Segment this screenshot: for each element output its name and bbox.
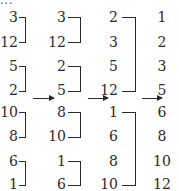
value-c1-r4: 2 [0, 83, 18, 97]
value-c4-r6: 8 [151, 129, 173, 143]
value-c2-r2: 12 [42, 35, 66, 49]
value-c2-r8: 6 [42, 177, 66, 191]
value-c1-r6: 8 [0, 129, 18, 143]
arrow-right-icon [88, 98, 108, 99]
value-c3-r8: 10 [94, 177, 118, 191]
value-c4-r3: 3 [151, 59, 173, 73]
value-c2-r6: 10 [42, 129, 66, 143]
value-c3-r7: 8 [94, 154, 118, 168]
value-c2-r3: 2 [42, 59, 66, 73]
pair-bracket [68, 17, 81, 43]
value-c4-r1: 1 [151, 10, 173, 24]
merge-bracket [122, 17, 136, 92]
value-c3-r5: 1 [94, 105, 118, 119]
pair-bracket [68, 161, 81, 186]
value-c1-r5: 10 [0, 105, 18, 119]
pair-bracket [19, 66, 26, 92]
arrow-right-icon [142, 98, 162, 99]
value-c2-r5: 8 [42, 105, 66, 119]
value-c3-r6: 6 [94, 129, 118, 143]
value-c4-r7: 10 [151, 154, 173, 168]
value-c3-r1: 2 [94, 10, 118, 24]
value-c1-r7: 6 [0, 154, 18, 168]
value-c1-r8: 1 [0, 177, 18, 191]
value-c4-r2: 2 [151, 35, 173, 49]
merge-bracket [122, 112, 136, 186]
pair-bracket [19, 161, 26, 186]
value-c1-r2: 12 [0, 35, 18, 49]
value-c4-r4: 5 [151, 83, 173, 97]
value-c3-r2: 3 [94, 35, 118, 49]
pair-bracket [19, 17, 26, 43]
value-c3-r3: 5 [94, 59, 118, 73]
arrow-right-icon [33, 98, 54, 99]
value-c2-r7: 1 [42, 154, 66, 168]
value-c3-r4: 12 [94, 83, 118, 97]
pair-bracket [68, 66, 81, 92]
value-c1-r3: 5 [0, 59, 18, 73]
pair-bracket [68, 112, 81, 138]
pair-bracket [19, 112, 26, 138]
clipped-heading-text: ... [0, 0, 13, 7]
value-c4-r5: 6 [151, 105, 173, 119]
value-c4-r8: 12 [151, 177, 173, 191]
value-c2-r1: 3 [42, 10, 66, 24]
value-c2-r4: 5 [42, 83, 66, 97]
value-c1-r1: 3 [0, 10, 18, 24]
